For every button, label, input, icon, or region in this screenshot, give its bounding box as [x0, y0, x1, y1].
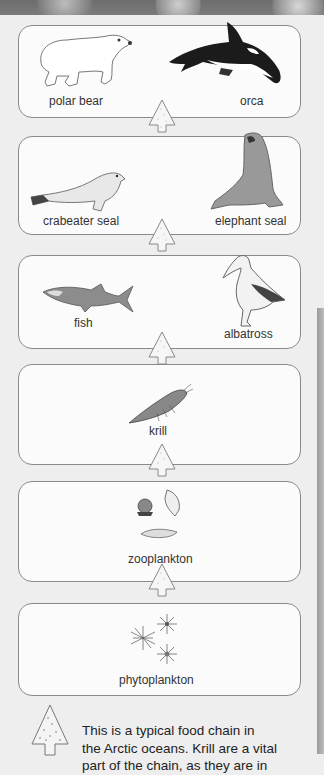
up-arrow-icon: [147, 331, 177, 365]
elephant-seal-icon: [207, 131, 287, 215]
up-arrow-icon: [147, 563, 177, 597]
caption-line: part of the chain, as they are in: [82, 757, 322, 775]
polar-bear-icon: [35, 32, 135, 90]
item-label: krill: [149, 424, 167, 438]
item-label: albatross: [224, 327, 273, 341]
caption-line: This is a typical food chain in: [82, 722, 322, 740]
up-arrow-icon: [30, 704, 70, 756]
item-label: orca: [240, 94, 263, 108]
caption-text: This is a typical food chain in the Arct…: [82, 722, 322, 775]
item-label: fish: [74, 316, 93, 330]
item-label: elephant seal: [215, 214, 286, 228]
food-chain-level-phytoplankton: phytoplankton: [18, 603, 301, 696]
item-label: crabeater seal: [43, 214, 119, 228]
up-arrow-icon: [147, 218, 177, 252]
orca-icon: [167, 20, 285, 92]
krill-icon: [127, 383, 193, 425]
albatross-icon: [221, 254, 287, 330]
item-label: polar bear: [49, 94, 103, 108]
crabeater-seal-icon: [29, 167, 129, 215]
caption-line: the Arctic oceans. Krill are a vital: [82, 740, 322, 758]
header-photo-band: [0, 0, 324, 15]
zooplankton-icon: [131, 488, 195, 548]
side-panel-edge: [317, 308, 324, 754]
up-arrow-icon: [147, 99, 177, 133]
up-arrow-icon: [147, 443, 177, 477]
phytoplankton-icon: [127, 612, 191, 670]
fish-icon: [41, 282, 135, 316]
item-label: phytoplankton: [119, 673, 194, 687]
